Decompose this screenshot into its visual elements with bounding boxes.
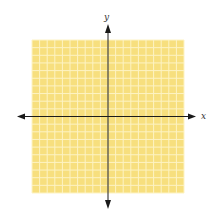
y-axis-label: y (103, 12, 110, 22)
coordinate-plane: x y (0, 0, 215, 217)
x-axis-right-arrow-icon (188, 114, 196, 120)
y-axis-down-arrow-icon (105, 200, 111, 209)
x-axis-left-arrow-icon (17, 114, 25, 120)
x-axis-label: x (201, 111, 206, 121)
y-axis-up-arrow-icon (105, 24, 111, 33)
